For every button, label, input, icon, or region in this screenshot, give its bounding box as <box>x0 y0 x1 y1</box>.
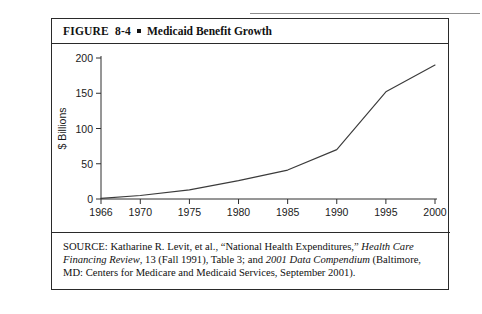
source-text: SOURCE: Katharine R. Levit, et al., “Nat… <box>63 240 436 280</box>
x-axis-tick-label: 1980 <box>227 206 251 218</box>
x-axis-tick-label: 2000 <box>423 206 447 218</box>
x-axis-tick-label: 1975 <box>178 206 202 218</box>
source-mid: , 13 (Fall 1991), Table 3; and <box>140 254 266 265</box>
y-axis-tick-label: 150 <box>75 87 93 99</box>
y-axis-tick-label: 50 <box>81 158 93 170</box>
figure-number-label: FIGURE 8-4 <box>63 25 131 37</box>
page-top-rule <box>250 13 480 14</box>
figure-header: FIGURE 8-4 Medicaid Benefit Growth <box>52 19 448 44</box>
y-axis-tick-label: 200 <box>75 52 93 64</box>
figure-title: Medicaid Benefit Growth <box>147 25 272 37</box>
x-axis-tick-label: 1985 <box>276 206 300 218</box>
y-axis-tick-label: 0 <box>87 193 93 205</box>
figure-box: FIGURE 8-4 Medicaid Benefit Growth 05010… <box>51 18 449 290</box>
x-axis-tick-label: 1995 <box>374 206 398 218</box>
x-axis-tick-label: 1990 <box>325 206 349 218</box>
y-axis-tick-label: 100 <box>75 123 93 135</box>
chart-plot-area: 0501001502001966197019751980198519901995… <box>52 44 448 240</box>
source-publication: 2001 Data Compendium <box>266 254 370 265</box>
line-chart: 0501001502001966197019751980198519901995… <box>52 44 448 240</box>
y-axis-title: $ Billions <box>56 107 68 149</box>
square-bullet-icon <box>137 29 141 33</box>
x-axis-tick-label: 1970 <box>129 206 153 218</box>
x-axis-tick-label: 1966 <box>89 206 113 218</box>
source-note: SOURCE: Katharine R. Levit, et al., “Nat… <box>52 232 450 280</box>
source-prefix: SOURCE: Katharine R. Levit, et al., “Nat… <box>63 241 361 252</box>
data-series-line <box>101 65 435 198</box>
